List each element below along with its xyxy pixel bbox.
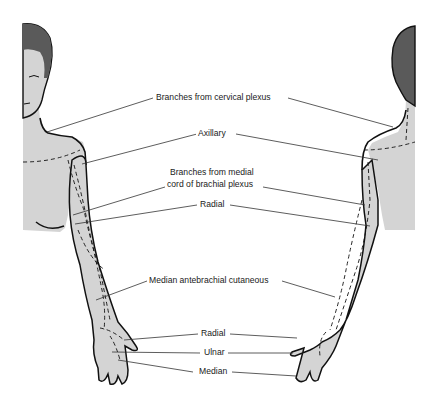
label-radial-upper: Radial	[198, 199, 226, 210]
label-median-antebrachial-cutaneous: Median antebrachial cutaneous	[147, 275, 270, 286]
label-cervical-plexus: Branches from cervical plexus	[154, 92, 273, 103]
label-axillary: Axillary	[196, 128, 228, 139]
left-figure-anterior	[23, 24, 137, 385]
label-ulnar: Ulnar	[202, 347, 227, 358]
right-figure-posterior	[291, 26, 415, 382]
label-medial-cord-line1: Branches from medial	[168, 167, 256, 178]
label-medial-cord-line2: cord of brachial plexus	[165, 179, 255, 190]
left-arm	[69, 156, 137, 384]
label-median: Median	[197, 366, 229, 377]
right-head	[392, 26, 415, 106]
nerve-distribution-diagram: Branches from cervical plexus Axillary B…	[0, 0, 435, 406]
right-arm	[291, 160, 378, 382]
label-radial-hand: Radial	[199, 328, 227, 339]
